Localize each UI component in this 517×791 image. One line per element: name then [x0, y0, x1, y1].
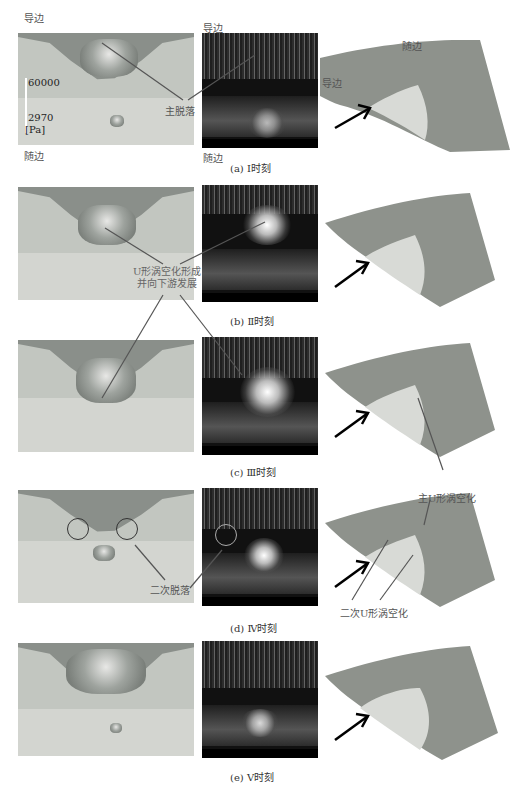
caption-c: (c) Ⅲ时刻 — [230, 464, 276, 479]
experiment-image-c — [202, 337, 318, 455]
leading-edge-label-right: 导边 — [322, 75, 342, 90]
blade-3d-c — [320, 335, 510, 460]
simulation-image-a: 60000 2970 [Pa] — [18, 33, 194, 145]
blade-3d-b — [320, 185, 510, 310]
legend-unit: [Pa] — [25, 124, 45, 135]
caption-b: (b) Ⅱ时刻 — [230, 313, 274, 328]
caption-e: (e) Ⅴ时刻 — [230, 769, 274, 784]
experiment-image-b — [202, 185, 318, 302]
simulation-image-c — [18, 340, 194, 452]
experiment-image-a — [202, 33, 318, 148]
legend-min: 2970 — [28, 112, 53, 123]
annotation-secondary-shedding: 二次脱落 — [150, 582, 190, 597]
leading-edge-label: 导边 — [24, 10, 44, 25]
annotation-main-shedding: 主脱落 — [165, 103, 195, 118]
annotation-secondary-u-vortex: 二次U形涡空化 — [340, 605, 408, 620]
annotation-main-u-vortex: 主U形涡空化 — [418, 490, 476, 505]
trailing-edge-label-mid: 随边 — [203, 150, 223, 165]
trailing-edge-label-right: 随边 — [402, 38, 422, 53]
caption-a: (a) Ⅰ时刻 — [230, 160, 271, 175]
legend-max: 60000 — [28, 77, 60, 88]
caption-d: (d) Ⅳ时刻 — [230, 620, 277, 635]
experiment-image-d — [202, 488, 318, 606]
simulation-image-e — [18, 643, 194, 756]
trailing-edge-label: 随边 — [24, 148, 44, 163]
experiment-image-e — [202, 641, 318, 758]
annotation-u-vortex: U形涡空化形成 并向下游发展 — [133, 266, 201, 290]
blade-3d-d — [320, 485, 510, 610]
blade-3d-e — [320, 638, 510, 763]
